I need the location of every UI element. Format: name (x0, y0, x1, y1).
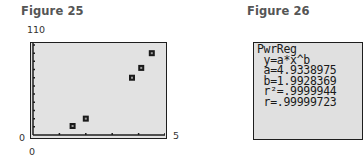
data-point-marker (138, 65, 144, 71)
y-min-label: 0 (19, 132, 25, 143)
data-point-marker (70, 123, 76, 129)
plot-axes (33, 43, 165, 135)
scatter-plot (31, 43, 165, 137)
x-max-label: 5 (173, 130, 179, 141)
x-min-label: 0 (29, 146, 35, 157)
figure-25-title: Figure 25 (21, 4, 84, 18)
data-point-marker (83, 116, 89, 122)
data-point-marker (149, 50, 155, 56)
y-max-label: 110 (27, 24, 45, 35)
plot-points (70, 50, 155, 129)
scatter-plot-frame (30, 42, 167, 139)
calc-line-r: r=.99999723 (257, 97, 362, 108)
figure-26-title: Figure 26 (247, 4, 310, 18)
data-point-marker (129, 75, 135, 81)
calculator-screen: PwrReg y=a*x^b a=4.9338975 b=1.9928369 r… (253, 42, 363, 140)
